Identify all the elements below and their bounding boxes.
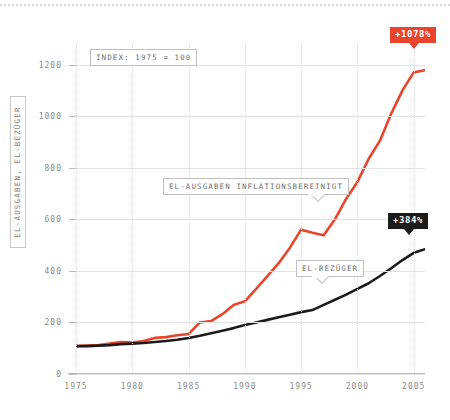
top-dotted-rule [0, 4, 450, 6]
x-tick-label: 1980 [102, 382, 162, 391]
series-line-el-ausgaben [76, 70, 425, 346]
chart-figure: EL-AUSGABEN, EL-BEZÜGER 0200400600800100… [0, 0, 450, 420]
index-note-box: INDEX: 1975 = 100 [90, 49, 197, 66]
callout-el-bezueger: EL-BEZÜGER [296, 260, 364, 277]
gridline-v [301, 44, 302, 374]
series-line-el-bezueger [76, 249, 425, 346]
y-tick-mark [69, 271, 76, 272]
x-tick-label: 2005 [384, 382, 444, 391]
y-tick-mark [69, 374, 76, 375]
x-tick-label: 1975 [46, 382, 106, 391]
end-badge-tail-red [409, 43, 419, 49]
gridline-v [357, 44, 358, 374]
y-tick-label: 1000 [0, 112, 62, 121]
x-axis-line [68, 373, 425, 374]
plot-area [76, 44, 425, 374]
end-badge-el-bezueger: +384% [388, 213, 428, 229]
gridline-v [414, 44, 415, 374]
gridline-h [76, 271, 425, 272]
y-tick-label: 800 [0, 163, 62, 172]
gridline-h [76, 219, 425, 220]
gridline-v [245, 44, 246, 374]
y-tick-label: 200 [0, 318, 62, 327]
y-tick-label: 0 [0, 370, 62, 379]
y-tick-mark [69, 322, 76, 323]
y-tick-mark [69, 116, 76, 117]
x-tick-label: 1985 [159, 382, 219, 391]
gridline-h [76, 374, 425, 375]
callout-pointer-mask-2 [312, 275, 326, 278]
x-tick-label: 1990 [215, 382, 275, 391]
gridline-v [189, 44, 190, 374]
y-tick-mark [69, 219, 76, 220]
y-tick-label: 1200 [0, 60, 62, 69]
callout-pointer-mask-1 [308, 193, 322, 196]
y-tick-label: 600 [0, 215, 62, 224]
gridline-v [132, 44, 133, 374]
gridline-h [76, 116, 425, 117]
gridline-h [76, 322, 425, 323]
x-tick-label: 1995 [271, 382, 331, 391]
x-tick-label: 2000 [327, 382, 387, 391]
end-badge-tail-black [404, 229, 414, 235]
end-badge-el-ausgaben: +1078% [390, 27, 436, 43]
gridline-v [76, 44, 77, 374]
y-tick-mark [69, 65, 76, 66]
y-tick-mark [69, 168, 76, 169]
gridline-h [76, 168, 425, 169]
y-tick-label: 400 [0, 266, 62, 275]
series-lines [76, 44, 425, 374]
